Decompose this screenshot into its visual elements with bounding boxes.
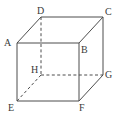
vertex-label-b: B <box>81 45 88 55</box>
cube-edge-fg <box>79 75 103 101</box>
vertex-label-h: H <box>31 65 38 75</box>
cube-edge-ad <box>17 17 41 43</box>
cube-visible-edges <box>17 17 103 101</box>
cube-edge-bc <box>79 17 103 43</box>
vertex-label-g: G <box>105 70 112 80</box>
cube-svg <box>0 0 116 120</box>
cube-edge-he <box>17 75 41 101</box>
vertex-label-e: E <box>8 103 14 113</box>
vertex-label-f: F <box>79 103 85 113</box>
vertex-label-a: A <box>4 38 11 48</box>
cube-figure: ABCDEFGH <box>0 0 116 120</box>
vertex-label-d: D <box>37 6 44 16</box>
vertex-label-c: C <box>105 7 112 17</box>
